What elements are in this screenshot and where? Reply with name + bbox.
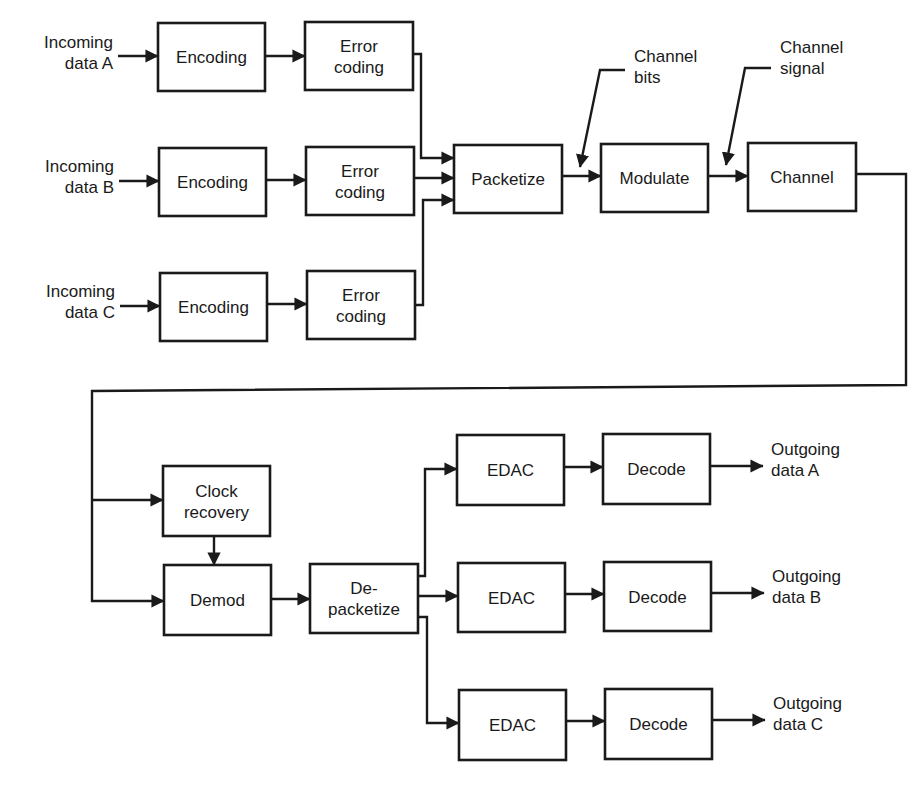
block-enc_c: Encoding — [160, 273, 267, 341]
label-in_c: Incomingdata C — [46, 282, 115, 322]
block-depacketize: De-packetize — [310, 564, 418, 633]
annotation-text: data C — [65, 303, 115, 322]
connector-depacketize-edac_a — [418, 469, 457, 576]
block-label: Error — [341, 162, 379, 181]
label-out_b: Outgoingdata B — [772, 567, 841, 607]
block-edac_b: EDAC — [458, 563, 565, 632]
block-enc_a: Encoding — [158, 23, 265, 91]
block-label: Decode — [627, 460, 686, 479]
block-err_c: Errorcoding — [307, 271, 415, 339]
label-ch_signal: Channelsignal — [780, 38, 843, 78]
block-label: Packetize — [471, 170, 545, 189]
annotation-text: Incoming — [44, 33, 113, 52]
annotation-text: Outgoing — [773, 694, 842, 713]
annotation-text: Incoming — [45, 157, 114, 176]
block-err_b: Errorcoding — [306, 147, 414, 215]
block-label: Demod — [190, 591, 245, 610]
boxes-layer: EncodingErrorcodingEncodingErrorcodingEn… — [158, 22, 856, 760]
annotation-text: data A — [771, 461, 820, 480]
block-label: recovery — [184, 503, 250, 522]
block-edac_a: EDAC — [457, 435, 564, 505]
block-label: packetize — [328, 600, 400, 619]
connector-err_c-packetize — [415, 200, 454, 305]
block-packetize: Packetize — [454, 145, 562, 213]
annotation-text: Outgoing — [771, 440, 840, 459]
block-label: Error — [342, 286, 380, 305]
annotation-text: data B — [772, 588, 821, 607]
annotation-text: data C — [773, 715, 823, 734]
block-label: Encoding — [176, 48, 247, 67]
block-demod: Demod — [164, 565, 271, 635]
block-label: coding — [336, 307, 386, 326]
label-in_a: Incomingdata A — [44, 33, 114, 73]
label-out_a: Outgoingdata A — [771, 440, 840, 480]
annotation-text: Incoming — [46, 282, 115, 301]
block-modulate: Modulate — [601, 144, 708, 212]
block-dec_b: Decode — [604, 562, 711, 631]
block-label: coding — [334, 58, 384, 77]
block-frame — [307, 271, 415, 339]
block-label: Error — [340, 37, 378, 56]
block-dec_c: Decode — [605, 689, 712, 759]
block-label: EDAC — [488, 589, 535, 608]
annotation-text: Channel — [780, 38, 843, 57]
block-channel: Channel — [748, 143, 856, 211]
block-label: EDAC — [487, 461, 534, 480]
annotation-text: Channel — [634, 47, 697, 66]
block-edac_c: EDAC — [459, 690, 566, 760]
block-label: Decode — [629, 715, 688, 734]
label-in_b: Incomingdata B — [45, 157, 114, 197]
block-frame — [163, 466, 270, 536]
block-err_a: Errorcoding — [305, 22, 413, 90]
label-out_c: Outgoingdata C — [773, 694, 842, 734]
block-label: Decode — [628, 588, 687, 607]
block-label: Channel — [770, 168, 833, 187]
block-frame — [305, 22, 413, 90]
block-enc_b: Encoding — [159, 148, 266, 216]
annotation-text: signal — [780, 59, 824, 78]
connector-err_a-packetize — [413, 54, 454, 158]
communication-system-block-diagram: EncodingErrorcodingEncodingErrorcodingEn… — [0, 0, 921, 791]
block-label: Clock — [195, 482, 238, 501]
block-label: coding — [335, 183, 385, 202]
block-clock: Clockrecovery — [163, 466, 270, 536]
block-label: De- — [350, 579, 377, 598]
annotation-text: bits — [634, 68, 660, 87]
block-label: EDAC — [489, 716, 536, 735]
annotation-text: data B — [65, 178, 114, 197]
block-label: Encoding — [177, 173, 248, 192]
block-dec_a: Decode — [603, 434, 710, 504]
annotation-text: Outgoing — [772, 567, 841, 586]
block-frame — [310, 564, 418, 633]
annotation-text: data A — [65, 54, 114, 73]
block-frame — [306, 147, 414, 215]
label-ch_bits: Channelbits — [634, 47, 697, 87]
block-label: Encoding — [178, 298, 249, 317]
block-label: Modulate — [620, 169, 690, 188]
connector-depacketize-edac_c — [418, 617, 459, 723]
